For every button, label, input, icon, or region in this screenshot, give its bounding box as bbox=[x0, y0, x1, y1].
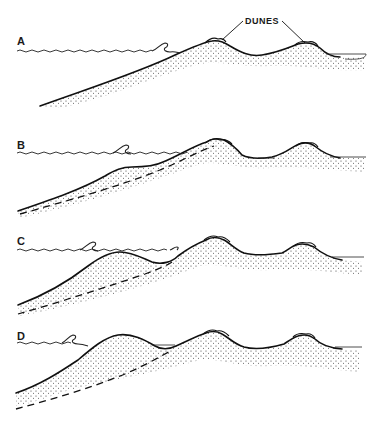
breaking-wave-a bbox=[152, 43, 180, 53]
sea-surface-a bbox=[17, 50, 152, 52]
dunes-leader-line-1 bbox=[222, 21, 243, 40]
breaking-wave-c-small bbox=[170, 247, 178, 250]
panel-label-c: C bbox=[17, 235, 25, 247]
sea-surface-b bbox=[17, 152, 187, 154]
panel-d: D bbox=[16, 330, 362, 409]
dunes-leader-line-2 bbox=[282, 21, 305, 43]
sand-body-b bbox=[18, 139, 365, 218]
panel-c: C bbox=[17, 235, 364, 316]
panel-label-b: B bbox=[17, 139, 25, 151]
panel-a: A DUNES bbox=[17, 16, 366, 108]
sea-surface-c bbox=[17, 249, 167, 251]
panel-b: B bbox=[17, 139, 366, 218]
panel-label-a: A bbox=[17, 35, 25, 47]
dunes-label: DUNES bbox=[245, 16, 279, 26]
panel-label-d: D bbox=[17, 330, 25, 342]
breaking-wave-b bbox=[113, 145, 131, 154]
coastal-profile-diagram: A DUNES B C bbox=[0, 0, 382, 426]
breaking-wave-d bbox=[62, 335, 88, 346]
